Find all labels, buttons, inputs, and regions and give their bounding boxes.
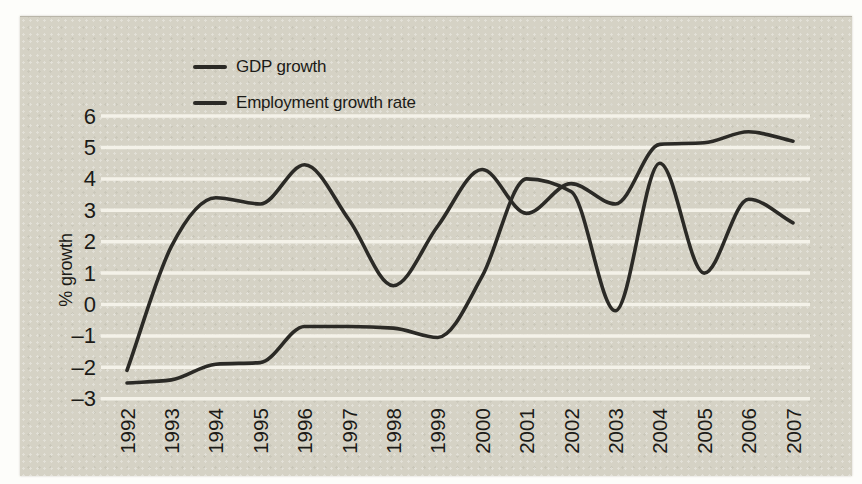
x-tick-label: 2004: [648, 408, 671, 454]
y-tick-label: –1: [72, 323, 96, 348]
y-tick-label: 6: [84, 104, 96, 129]
x-tick-label: 2005: [693, 408, 716, 454]
chart-panel: 6543210–1–2–3199219931994199519961997199…: [20, 16, 852, 476]
employment-growth-rate-line-swatch: [193, 101, 227, 105]
x-tick-label: 1999: [426, 408, 449, 454]
x-tick-label: 2002: [560, 408, 583, 454]
x-tick-label: 1992: [116, 408, 139, 454]
x-tick-labels: 1992199319941995199619971998199920002001…: [116, 408, 805, 454]
scanned-figure-page: 6543210–1–2–3199219931994199519961997199…: [0, 0, 862, 484]
y-tick-label: 2: [84, 229, 96, 254]
y-tick-label: 1: [84, 261, 96, 286]
x-tick-label: 1994: [204, 408, 227, 454]
y-tick-label: 5: [84, 135, 96, 160]
y-tick-label: 0: [84, 292, 96, 317]
y-tick-label: –3: [72, 386, 96, 411]
y-tick-label: 3: [84, 198, 96, 223]
x-tick-label: 1998: [382, 408, 405, 454]
x-tick-label: 2006: [737, 408, 760, 454]
x-tick-label: 1993: [160, 408, 183, 454]
legend-item-employment-growth-rate: Employment growth rate: [193, 93, 416, 113]
x-tick-label: 2007: [782, 408, 805, 454]
chart-legend: GDP growth Employment growth rate: [193, 57, 416, 129]
x-tick-label: 1995: [249, 408, 272, 454]
x-tick-label: 2003: [604, 408, 627, 454]
gdp-growth-line-swatch: [193, 65, 227, 69]
legend-label-gdp-growth: GDP growth: [236, 57, 326, 77]
x-tick-label: 2000: [471, 408, 494, 454]
y-axis-title: % growth: [56, 233, 77, 306]
x-tick-label: 2001: [515, 408, 538, 454]
gridlines: [101, 116, 810, 399]
x-tick-label: 1996: [293, 408, 316, 454]
legend-item-gdp-growth: GDP growth: [193, 57, 416, 77]
y-tick-label: –2: [72, 355, 96, 380]
x-tick-label: 1997: [338, 408, 361, 454]
y-tick-label: 4: [84, 166, 96, 191]
legend-label-employment-growth-rate: Employment growth rate: [236, 93, 416, 113]
growth-line-chart: 6543210–1–2–3199219931994199519961997199…: [0, 1, 862, 484]
